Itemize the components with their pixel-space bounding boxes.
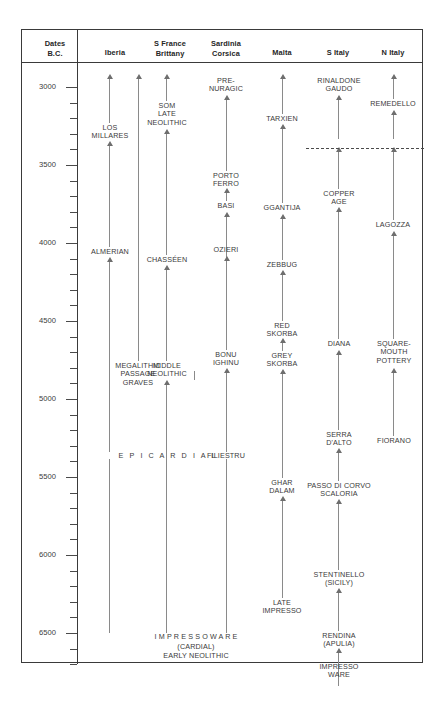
arrow-head-icon xyxy=(164,380,170,385)
culture-label-ggantija: GGANTIJA xyxy=(254,204,310,212)
culture-label-porto-ferro: PORTO FERRO xyxy=(200,172,252,189)
axis-tick-minor xyxy=(70,446,77,447)
column-header-n-italy: N Italy xyxy=(363,48,423,58)
culture-label-som-late-neolithic: SOM LATE NEOLITHIC xyxy=(141,102,193,127)
arrow-head-icon xyxy=(391,74,397,79)
culture-label-basi: BASI xyxy=(204,202,248,210)
axis-label-4000: 4000 xyxy=(16,239,56,247)
arrow-head-icon xyxy=(164,129,170,134)
arrow-head-icon xyxy=(280,124,286,129)
sequence-arrow-iberia-west-mid xyxy=(109,145,110,247)
sequence-arrow-nitaly-upper xyxy=(393,78,394,99)
culture-label-zebbug: ZEBBUG xyxy=(256,261,308,269)
arrow-head-icon xyxy=(107,257,113,262)
axis-label-3500: 3500 xyxy=(16,161,56,169)
culture-label-almerian: ALMERIAN xyxy=(80,248,140,256)
axis-tick-major xyxy=(66,477,77,478)
arrow-head-icon xyxy=(280,270,286,275)
culture-label-rendina-apulia: RENDINA (APULIA) xyxy=(310,632,368,649)
arrow-head-icon xyxy=(391,231,397,236)
culture-label-copper-age: COPPER AGE xyxy=(312,190,366,207)
culture-label-diana: DIANA xyxy=(314,340,364,348)
sequence-arrow-malta-ghardalam xyxy=(282,500,283,598)
sequence-arrow-sardinia-ozieri xyxy=(226,260,227,350)
culture-label-grey-skorba: GREY SKORBA xyxy=(256,352,308,369)
axis-tick-minor xyxy=(70,571,77,572)
axis-label-4500: 4500 xyxy=(16,317,56,325)
sequence-arrow-sfrance-upper xyxy=(166,78,167,101)
sequence-arrow-sardinia-filiestru xyxy=(226,459,227,633)
sequence-arrow-sitaly-passo xyxy=(338,503,339,570)
axis-tick-minor xyxy=(70,539,77,540)
culture-label-serra-dalto: SERRA D'ALTO xyxy=(312,431,366,448)
sequence-arrow-sfrance-lower xyxy=(166,269,167,361)
middle-neolithic-bracket-mark xyxy=(194,371,195,380)
annotation-early-neolithic: EARLY NEOLITHIC xyxy=(118,652,274,660)
column-header-dates: Dates B.C. xyxy=(32,39,78,58)
axis-tick-minor xyxy=(70,196,77,197)
column-header-malta: Malta xyxy=(251,48,313,58)
arrow-head-icon xyxy=(224,95,230,100)
axis-tick-minor xyxy=(70,290,77,291)
arrow-head-icon xyxy=(164,265,170,270)
axis-tick-minor xyxy=(70,524,77,525)
axis-tick-major xyxy=(66,243,77,244)
axis-tick-minor xyxy=(70,586,77,587)
chronology-chart: Dates B.C. Iberia S France Brittany Sard… xyxy=(21,29,423,663)
column-header-s-italy: S Italy xyxy=(307,48,369,58)
arrow-head-icon xyxy=(136,74,142,79)
arrow-head-icon xyxy=(164,74,170,79)
sequence-arrow-malta-redskorba xyxy=(282,342,283,351)
arrow-head-icon xyxy=(336,350,342,355)
culture-label-passo-di-corvo-scaloria: PASSO DI CORVO SCALORIA xyxy=(300,482,378,499)
axis-tick-major xyxy=(66,87,77,88)
axis-tick-minor xyxy=(70,415,77,416)
arrow-head-icon xyxy=(107,141,113,146)
axis-tick-major xyxy=(66,399,77,400)
column-header-iberia: Iberia xyxy=(84,48,146,58)
arrow-head-icon xyxy=(280,496,286,501)
sequence-arrow-nitaly-squaremouth xyxy=(393,372,394,436)
sequence-arrow-malta-greyskorba xyxy=(282,373,283,478)
sequence-arrow-sfrance-base xyxy=(166,384,167,633)
axis-tick-minor xyxy=(70,508,77,509)
sequence-arrow-sitaly-stentinello xyxy=(338,592,339,631)
axis-tick-minor xyxy=(70,664,77,665)
axis-tick-minor xyxy=(70,149,77,150)
axis-tick-minor xyxy=(70,617,77,618)
chart-header-row: Dates B.C. Iberia S France Brittany Sard… xyxy=(22,30,422,63)
axis-label-5500: 5500 xyxy=(16,473,56,481)
sequence-arrow-iberia-west-base xyxy=(109,459,110,633)
arrow-head-icon xyxy=(280,369,286,374)
axis-tick-minor xyxy=(70,493,77,494)
culture-label-tarxien: TARXIEN xyxy=(256,115,308,123)
arrow-head-icon xyxy=(224,188,230,193)
culture-label-impresso-ware-sitaly: IMPRESSO WARE xyxy=(310,663,368,680)
sequence-arrow-nitaly-lagozza xyxy=(393,235,394,339)
sequence-arrow-sitaly-rinaldone xyxy=(338,99,339,139)
arrow-head-icon xyxy=(391,110,397,115)
culture-label-stentinello-sicily: STENTINELLO (SICILY) xyxy=(304,571,374,588)
arrow-head-icon xyxy=(224,212,230,217)
axis-tick-minor xyxy=(70,649,77,650)
axis-tick-major xyxy=(66,633,77,634)
culture-label-fiorano: FIORANO xyxy=(366,437,422,445)
sequence-arrow-malta-tarxien xyxy=(282,128,283,203)
culture-label-rinaldone-gaudo: RINALDONE GAUDO xyxy=(308,77,370,94)
sequence-arrow-sitaly-diana xyxy=(338,354,339,430)
arrow-head-icon xyxy=(336,448,342,453)
sequence-arrow-sardinia-bonu xyxy=(226,372,227,452)
arrow-head-icon xyxy=(107,74,113,79)
axis-tick-major xyxy=(66,555,77,556)
sequence-arrow-sitaly-copper xyxy=(338,211,339,339)
arrow-head-icon xyxy=(224,256,230,261)
copper-age-horizon-dashed-line xyxy=(306,148,424,149)
axis-tick-minor xyxy=(70,259,77,260)
culture-label-bonu-ighinu: BONU IGHINU xyxy=(200,351,252,368)
axis-tick-minor xyxy=(70,368,77,369)
axis-tick-minor xyxy=(70,103,77,104)
sequence-arrow-sfrance-mid xyxy=(166,133,167,255)
culture-label-red-skorba: RED SKORBA xyxy=(256,322,308,339)
sequence-arrow-sardinia-upper xyxy=(226,99,227,171)
culture-label-square-mouth-pottery: SQUARE- MOUTH POTTERY xyxy=(366,340,422,365)
